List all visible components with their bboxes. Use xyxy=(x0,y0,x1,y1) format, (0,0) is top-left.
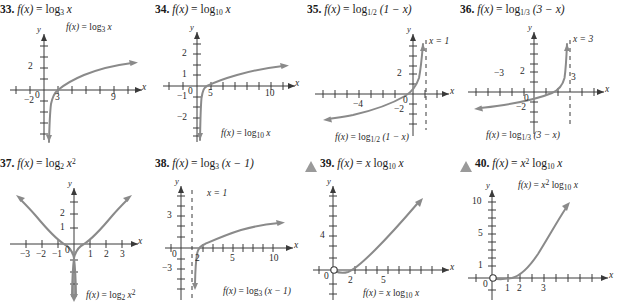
curve-arrow-down xyxy=(46,135,52,142)
y-tick-label-10: 10 xyxy=(472,196,482,206)
y-tick-label-neg2: −2 xyxy=(177,112,187,122)
problem-36-fx: f(x) xyxy=(477,3,493,15)
problem-37-caption: f(x) = log2 x2 xyxy=(86,288,136,302)
x-axis-arrow xyxy=(442,267,449,273)
x-tick-label-neg1: −1 xyxy=(52,249,62,259)
origin-label: 0 xyxy=(483,279,488,289)
y-tick-label-neg2: −2 xyxy=(24,95,34,105)
problem-40-caption: f(x) = x2 log10 x xyxy=(518,178,578,192)
x-tick-label-neg3: −3 xyxy=(494,68,504,78)
problem-39-eq: = x log xyxy=(356,157,388,169)
problem-33: 33. f(x) = log3 x xyxy=(0,4,152,150)
x-tick-label-2: 2 xyxy=(517,283,522,293)
left-arrow xyxy=(16,195,25,202)
y-tick-label-1: 1 xyxy=(182,69,187,79)
y-tick-label-neg1: −1 xyxy=(177,91,187,101)
problem-38-arg: (x − 1) xyxy=(222,157,254,169)
problem-39: 39. f(x) = x log10 x xyxy=(303,158,458,306)
problem-34-number: 34. xyxy=(155,3,169,15)
problem-33-header: 33. f(x) = log3 x xyxy=(0,4,72,16)
problem-34-base: 10 xyxy=(215,8,223,17)
curve-arrow xyxy=(129,60,138,66)
problem-39-marker-triangle xyxy=(305,161,317,172)
problem-34: 34. f(x) = log10 x xyxy=(155,4,307,150)
asymptote-label: x = 3 xyxy=(573,34,593,44)
y-axis-arrow xyxy=(489,190,495,197)
curve-arrow xyxy=(276,220,285,226)
problem-35-caption: f(x) = log1/2 (1 − x) xyxy=(335,132,409,144)
x-tick-label-5: 5 xyxy=(230,253,235,263)
problem-34-header: 34. f(x) = log10 x xyxy=(155,4,231,16)
y-tick-label-2: 2 xyxy=(60,208,65,218)
y-axis-label: y xyxy=(175,176,179,186)
curve-arrow-up xyxy=(420,44,426,51)
x-tick-label-9: 9 xyxy=(111,92,116,102)
x-axis-arrow xyxy=(288,83,295,89)
x-tick-label-neg2: −2 xyxy=(36,249,46,259)
y-tick-label-neg3: −3 xyxy=(162,263,172,273)
x-tick-label-3: 3 xyxy=(541,283,546,293)
problem-33-number: 33. xyxy=(0,3,14,15)
y-axis-label: y xyxy=(68,178,72,188)
x-tick-label-1: 1 xyxy=(505,283,510,293)
problem-34-fx: f(x) xyxy=(172,3,188,15)
curve-arrow xyxy=(562,202,570,211)
y-axis-arrow xyxy=(194,32,200,39)
problem-40-arg: x xyxy=(557,157,562,169)
x-axis-label: x xyxy=(609,270,613,280)
problem-36-plot: x y 0 −3 3 2 −2 x = 3 f(x) = log1/3 (3 −… xyxy=(462,22,620,148)
y-axis-label: y xyxy=(407,24,411,34)
y-tick-label-1: 1 xyxy=(60,222,65,232)
y-axis-arrow xyxy=(41,34,47,41)
x-tick-label-10: 10 xyxy=(265,88,275,98)
problem-35-fx: f(x) xyxy=(324,3,340,15)
origin-label: 0 xyxy=(324,271,329,281)
right-branch xyxy=(72,199,128,296)
right-arrow xyxy=(123,195,132,202)
curve-arrow-down xyxy=(192,283,198,290)
open-point-origin xyxy=(331,267,337,273)
problem-38: 38. f(x) = log3 (x − 1) xyxy=(155,158,307,306)
y-axis-arrow xyxy=(531,32,537,39)
problem-37-base: 2 xyxy=(60,162,64,171)
origin-label: 0 xyxy=(65,245,70,255)
problem-34-caption: f(x) = log10 x xyxy=(221,128,271,140)
problem-37-header: 37. f(x) = log2 x2 xyxy=(0,158,76,171)
x-tick-label-neg3: −3 xyxy=(20,249,30,259)
x-axis-arrow xyxy=(286,245,293,251)
problem-33-fx: f(x) xyxy=(17,3,33,15)
x-axis-label: x xyxy=(605,84,609,94)
y-axis-arrow xyxy=(178,186,184,193)
problem-35-plot: x y 0 −4 2 −2 x = 1 f(x) = log1/2 (1 − x… xyxy=(309,22,461,148)
problem-38-caption: f(x) = log3 (x − 1) xyxy=(223,286,291,298)
y-tick-label-3: 3 xyxy=(167,210,172,220)
problem-37-number: 37. xyxy=(0,157,14,169)
problem-36-header: 36. f(x) = log1/3 (3 − x) xyxy=(460,4,565,16)
x-axis-label: x xyxy=(295,78,299,88)
problem-34-eq: = log xyxy=(191,3,215,15)
x-axis-arrow xyxy=(601,275,608,281)
problem-40-eq: = x xyxy=(511,157,525,169)
problem-34-plot: x y 0 5 10 2 1 −1 −2 f(x) = log10 x xyxy=(159,22,307,148)
problem-39-plot: x y 0 2 5 4 f(x) = x log10 x xyxy=(307,176,459,304)
curve-arrow-up xyxy=(564,44,570,51)
curve-arrow xyxy=(474,106,483,112)
problem-36-eq: = log xyxy=(496,3,520,15)
y-axis-arrow xyxy=(410,34,416,41)
curve-arrow xyxy=(323,117,332,123)
y-tick-label-1: 1 xyxy=(478,260,483,270)
problem-39-fx: f(x) xyxy=(337,157,353,169)
problem-39-number: 39. xyxy=(320,157,334,169)
x-axis-label: x xyxy=(138,236,142,246)
problem-33-caption: f(x) = log3 x xyxy=(66,22,112,34)
x-tick-label-neg4: −4 xyxy=(353,99,363,109)
y-axis-label: y xyxy=(486,180,490,190)
textbook-exercise-page: 33. f(x) = log3 x xyxy=(0,0,621,306)
problem-38-number: 38. xyxy=(155,157,169,169)
x-tick-label-2: 2 xyxy=(195,253,200,263)
y-axis-label: y xyxy=(190,22,194,32)
curve-40 xyxy=(493,202,570,279)
problem-35: 35. f(x) = log1/2 (1 − x) xyxy=(307,4,459,150)
y-tick-label-neg2: −2 xyxy=(516,102,526,112)
y-axis-label: y xyxy=(327,176,331,186)
